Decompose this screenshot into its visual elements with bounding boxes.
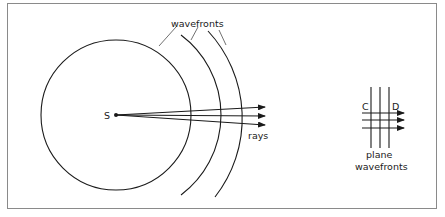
wavefront-arc-3 <box>208 31 242 197</box>
plane-wavefronts: C D plane wavefronts <box>355 87 408 172</box>
plane-label-line1: plane <box>366 149 393 160</box>
leader-line-3 <box>219 30 226 45</box>
plane-label-c: C <box>362 101 369 112</box>
leader-line-1 <box>159 27 176 46</box>
source-label: S <box>104 110 110 121</box>
rays-label: rays <box>248 130 268 141</box>
wavefronts-label: wavefronts <box>171 18 224 29</box>
plane-label-line2: wavefronts <box>355 161 408 172</box>
plane-label-d: D <box>392 101 399 112</box>
wavefront-diagram: S wavefronts rays C D plane wavefronts <box>0 0 445 217</box>
